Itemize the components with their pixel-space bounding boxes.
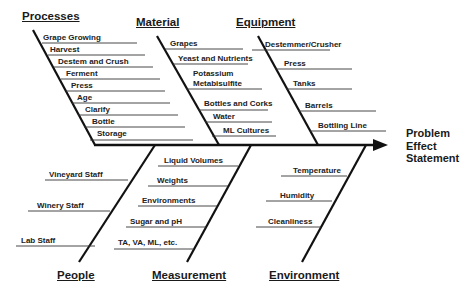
cause-metabisulfite: Metabisulfite [193,79,242,88]
cause-grapes: Grapes [170,39,198,48]
category-environment: Environment [269,269,339,281]
category-people: People [57,269,95,281]
cause-bottling-line: Bottling Line [318,121,367,130]
cause-ta-va-ml: TA, VA, ML, etc. [118,238,177,247]
effect-line-3: Statement [406,152,459,165]
cause-water: Water [213,112,235,121]
bone-material [157,36,219,145]
cause-destemmer-crusher: Destemmer/Crusher [265,40,341,49]
category-material: Material [136,16,179,28]
cause-tanks: Tanks [293,79,316,88]
bone-environment [302,145,366,262]
cause-weights: Weights [157,176,188,185]
cause-sugar-and-ph: Sugar and pH [130,217,182,226]
cause-barrels: Barrels [305,101,333,110]
effect-line-2: Effect [406,140,459,153]
cause-vineyard-staff: Vineyard Staff [49,170,103,179]
cause-bottle: Bottle [92,117,115,126]
problem-effect-statement: Problem Effect Statement [406,127,459,165]
cause-bottles-and-corks: Bottles and Corks [204,99,272,108]
category-measurement: Measurement [152,269,226,281]
category-processes: Processes [22,10,80,22]
cause-potassium: Potassium [193,69,233,78]
arrow-head-icon [373,139,388,151]
cause-clarify: Clarify [85,105,110,114]
cause-press-equipment: Press [284,59,306,68]
cause-destem-and-crush: Destem and Crush [58,57,129,66]
cause-storage: Storage [97,129,127,138]
effect-line-1: Problem [406,127,459,140]
cause-winery-staff: Winery Staff [37,201,84,210]
cause-ml-cultures: ML Cultures [223,126,269,135]
cause-harvest: Harvest [50,45,79,54]
cause-grape-growing: Grape Growing [43,33,101,42]
cause-environments: Environments [142,196,195,205]
cause-humidity: Humidity [280,191,314,200]
cause-liquid-volumes: Liquid Volumes [164,156,223,165]
category-equipment: Equipment [236,16,295,28]
cause-lab-staff: Lab Staff [21,236,55,245]
cause-yeast-and-nutrients: Yeast and Nutrients [178,54,253,63]
fishbone-diagram: Problem Effect Statement Processes Mater… [0,0,472,299]
cause-ferment: Ferment [66,69,98,78]
cause-cleanliness: Cleanliness [268,217,312,226]
cause-press: Press [71,81,93,90]
cause-age: Age [77,93,92,102]
cause-temperature: Temperature [293,166,341,175]
